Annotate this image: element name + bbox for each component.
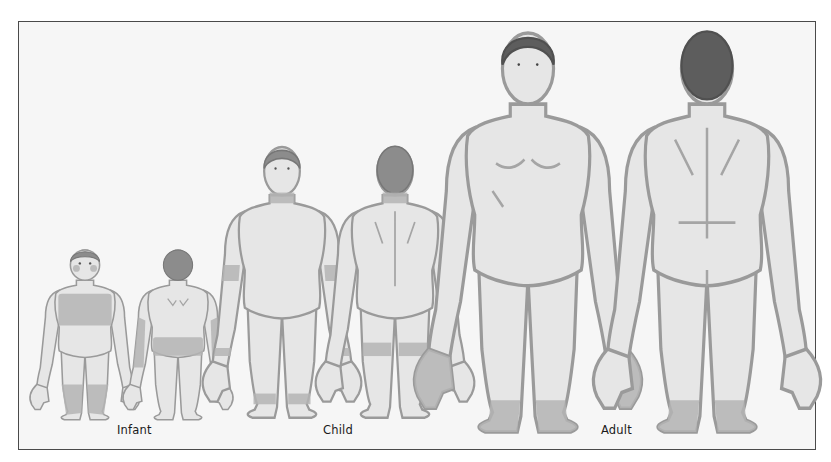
label-infant: Infant [117,423,152,437]
body-figures [0,0,831,462]
adult-back-figure [593,31,820,432]
label-adult: Adult [601,423,632,437]
label-child: Child [323,423,353,437]
